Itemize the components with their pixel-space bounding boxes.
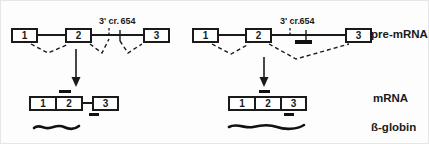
row-label-mrna: mRNA bbox=[373, 92, 408, 104]
right-splice-path-intron2 bbox=[269, 44, 349, 59]
right-exon3-probe-bar bbox=[284, 113, 294, 116]
right-mrna-exon2: 2 bbox=[254, 96, 282, 111]
splicing-diagram: 1 2 3 3' cr. 654 1 2 3 1 2 3 3' cr. 654 … bbox=[0, 0, 429, 144]
right-beta-globin-squiggle bbox=[229, 125, 304, 129]
left-premrna-exon3: 3 bbox=[143, 28, 170, 43]
left-beta-globin-squiggle bbox=[34, 126, 79, 129]
left-splice-path-654 bbox=[120, 41, 142, 53]
left-premrna-exon2: 2 bbox=[65, 28, 92, 43]
right-premrna-exon3: 3 bbox=[345, 28, 372, 43]
left-654-label: 654 bbox=[113, 16, 143, 26]
right-mrna-exon1: 1 bbox=[228, 96, 256, 111]
right-exon2-probe-bar bbox=[259, 90, 270, 93]
left-mrna-exon2: 2 bbox=[55, 96, 83, 111]
row-label-beta-globin: ß-globin bbox=[371, 121, 416, 133]
left-premrna-exon1: 1 bbox=[11, 28, 38, 43]
left-mrna-exon3: 3 bbox=[92, 96, 119, 111]
left-splice-path-intron1 bbox=[31, 44, 69, 53]
right-654-label: 654 bbox=[292, 16, 322, 26]
right-premrna-exon1: 1 bbox=[192, 28, 219, 43]
right-splice-path-intron1 bbox=[212, 44, 249, 54]
left-mrna-exon1: 1 bbox=[29, 96, 57, 111]
antisense-oligo-bar bbox=[295, 40, 312, 44]
left-exon3-probe-bar bbox=[89, 113, 99, 116]
diagram-strokes bbox=[1, 1, 429, 144]
right-down-arrowhead-icon bbox=[260, 77, 269, 87]
right-premrna-exon2: 2 bbox=[245, 28, 272, 43]
left-down-arrowhead-icon bbox=[72, 77, 81, 87]
left-exon2-probe-bar bbox=[59, 90, 71, 93]
left-splice-path-cryptic bbox=[90, 39, 109, 53]
row-label-pre-mrna: pre-mRNA bbox=[371, 28, 428, 40]
right-mrna-exon3: 3 bbox=[280, 96, 307, 111]
